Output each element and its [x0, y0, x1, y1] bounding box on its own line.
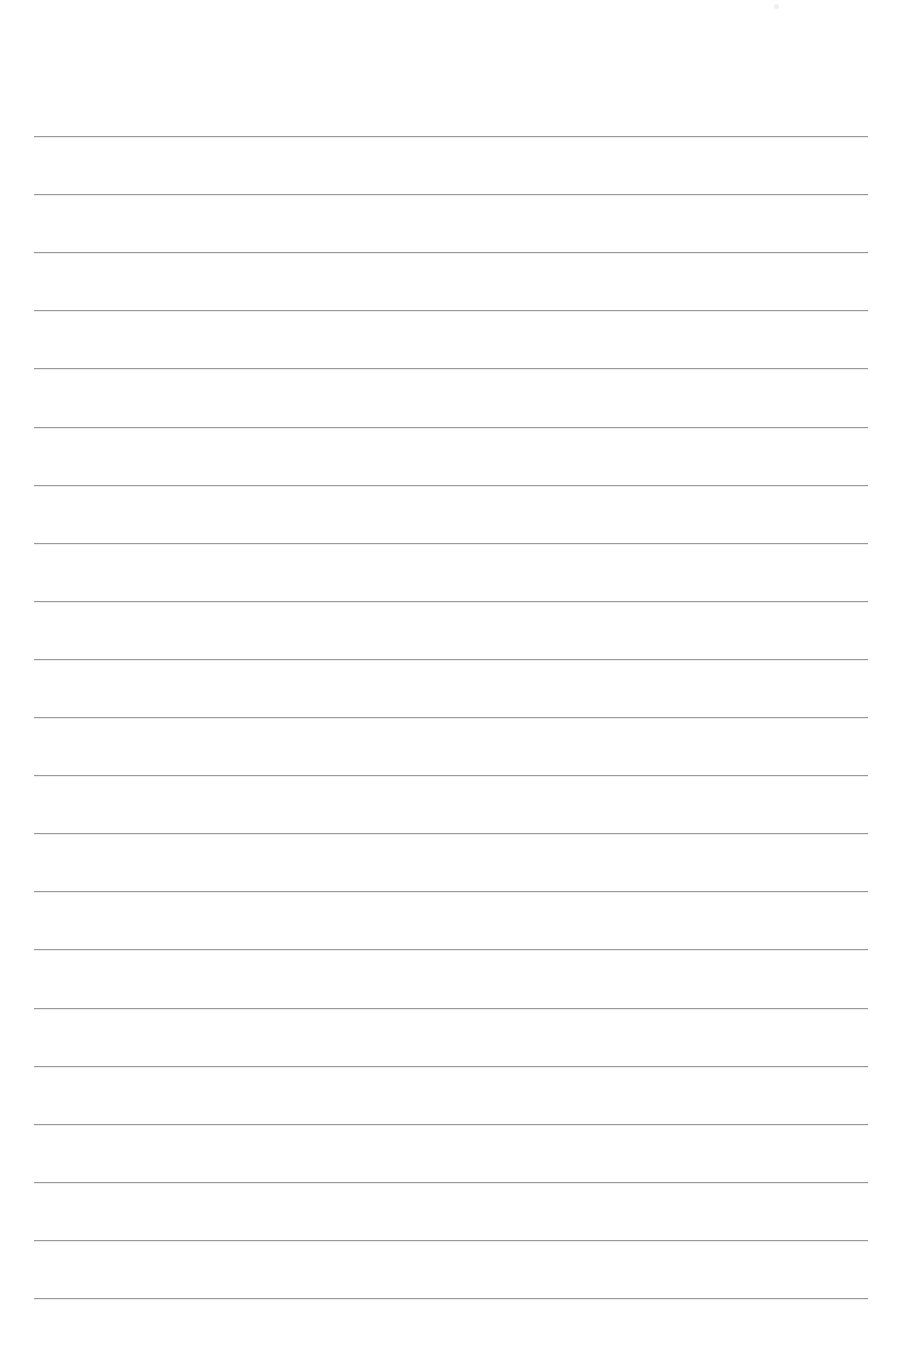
ruled-line — [34, 833, 868, 834]
ruled-line — [34, 717, 868, 718]
ruled-line — [34, 1066, 868, 1067]
ruled-line — [34, 659, 868, 660]
ruled-line — [34, 949, 868, 950]
ruled-line — [34, 1298, 868, 1299]
ruled-line — [34, 775, 868, 776]
ruled-line — [34, 136, 868, 137]
ruled-line — [34, 194, 868, 195]
ruled-line — [34, 252, 868, 253]
lined-paper-page — [0, 0, 910, 1351]
ruled-line — [34, 1124, 868, 1125]
ruled-line — [34, 543, 868, 544]
ruled-line — [34, 1182, 868, 1183]
ruled-line — [34, 1240, 868, 1241]
ruled-line — [34, 891, 868, 892]
ruled-line — [34, 601, 868, 602]
ruled-line — [34, 1008, 868, 1009]
paper-speck — [774, 4, 779, 9]
ruled-line — [34, 427, 868, 428]
ruled-line — [34, 368, 868, 369]
ruled-line — [34, 310, 868, 311]
ruled-line — [34, 485, 868, 486]
